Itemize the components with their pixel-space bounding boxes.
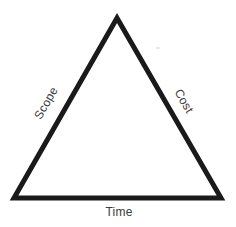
edge-label-time: Time: [105, 206, 132, 218]
scan-artifact-speck: [156, 47, 160, 49]
triangle-diagram: Scope Cost Time: [0, 0, 236, 227]
